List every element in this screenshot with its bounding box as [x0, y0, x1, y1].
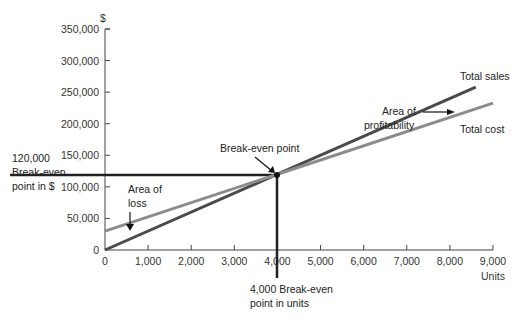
x-axis-label: Units — [481, 270, 505, 282]
arrow-icon — [255, 157, 272, 171]
be-units-label-1: 4,000 Break-even — [250, 283, 333, 295]
y-tick-label: 50,000 — [67, 212, 99, 224]
total-cost-line — [105, 103, 493, 231]
be-dollars-label-2: point in $ — [12, 180, 55, 192]
x-tick-label: 2,000 — [178, 255, 204, 267]
x-tick-label: 0 — [102, 255, 108, 267]
x-tick-label: 7,000 — [394, 255, 420, 267]
y-tick-label: 0 — [93, 244, 99, 256]
y-axis-label: $ — [100, 12, 106, 24]
be-dollars-value: 120,000 — [12, 152, 50, 164]
x-tick-label: 1,000 — [135, 255, 161, 267]
arrow-head-icon — [126, 224, 134, 231]
area-of-loss-label-1: Area of — [128, 183, 162, 195]
x-tick-label: 8,000 — [437, 255, 463, 267]
be-units-label-2: point in units — [250, 297, 309, 309]
x-tick-label: 9,000 — [480, 255, 506, 267]
y-tick-label: 100,000 — [61, 181, 99, 193]
area-of-profit-label-2: profitability — [364, 119, 415, 131]
area-of-loss-label-2: loss — [128, 197, 147, 209]
break-even-chart: 050,000100,000150,000200,000250,000300,0… — [0, 0, 517, 322]
break-even-point-label: Break-even point — [220, 142, 299, 154]
x-tick-label: 5,000 — [307, 255, 333, 267]
y-tick-label: 250,000 — [61, 86, 99, 98]
y-tick-label: 350,000 — [61, 23, 99, 35]
y-tick-label: 300,000 — [61, 55, 99, 67]
y-tick-label: 150,000 — [61, 149, 99, 161]
total-cost-label: Total cost — [460, 123, 504, 135]
y-axis: 050,000100,000150,000200,000250,000300,0… — [61, 12, 110, 256]
arrow-head-icon — [268, 166, 275, 173]
arrow-head-icon — [447, 109, 455, 115]
y-tick-label: 200,000 — [61, 118, 99, 130]
x-axis: 01,0002,0003,0004,0005,0006,0007,0008,00… — [102, 245, 506, 282]
area-of-profit-label-1: Area of — [382, 105, 416, 117]
x-tick-label: 6,000 — [351, 255, 377, 267]
total-sales-label: Total sales — [460, 70, 510, 82]
be-dollars-label-1: Break-even — [12, 166, 66, 178]
x-tick-label: 3,000 — [221, 255, 247, 267]
